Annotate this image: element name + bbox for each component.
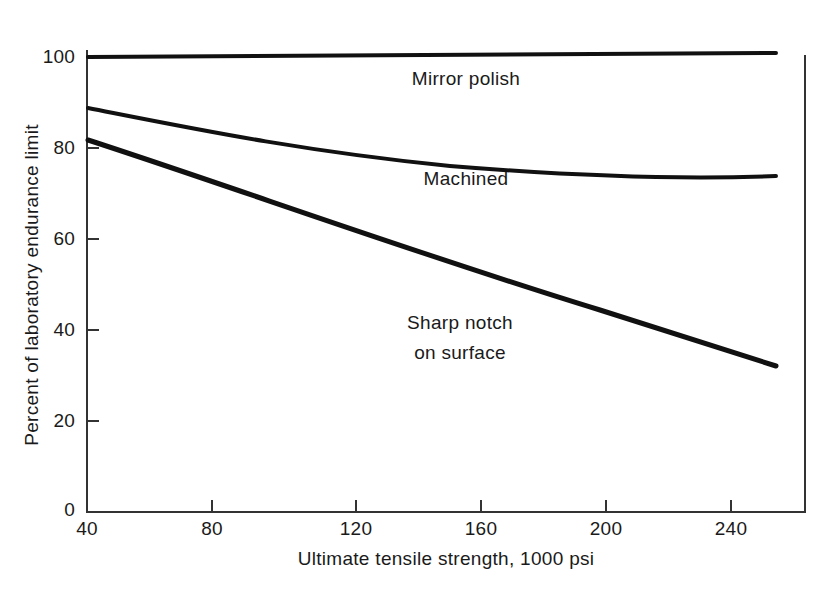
curve-machined <box>88 108 776 177</box>
x-tick-label-160: 160 <box>465 518 497 540</box>
chart-figure: 100 80 60 40 20 0 40 80 120 160 200 240 … <box>0 0 839 592</box>
x-tick-label-40: 40 <box>76 518 98 540</box>
y-tick-label-0: 0 <box>20 499 75 521</box>
curve-label-mirror-polish: Mirror polish <box>412 68 520 90</box>
curve-mirror-polish <box>88 53 776 57</box>
y-tick-label-100: 100 <box>20 46 75 68</box>
curve-label-sharp-notch-line1: Sharp notch <box>407 308 513 338</box>
x-tick-label-120: 120 <box>340 518 372 540</box>
x-tick-label-240: 240 <box>715 518 747 540</box>
curve-label-machined: Machined <box>424 168 509 190</box>
x-axis-title: Ultimate tensile strength, 1000 psi <box>298 548 595 570</box>
curve-label-sharp-notch-line2: on surface <box>407 338 513 368</box>
y-axis-title: Percent of laboratory endurance limit <box>21 124 43 446</box>
x-tick-label-80: 80 <box>201 518 223 540</box>
x-tick-label-200: 200 <box>590 518 622 540</box>
axis-frame <box>87 50 806 513</box>
curve-label-sharp-notch: Sharp notch on surface <box>407 308 513 368</box>
x-tick-marks <box>87 500 731 512</box>
